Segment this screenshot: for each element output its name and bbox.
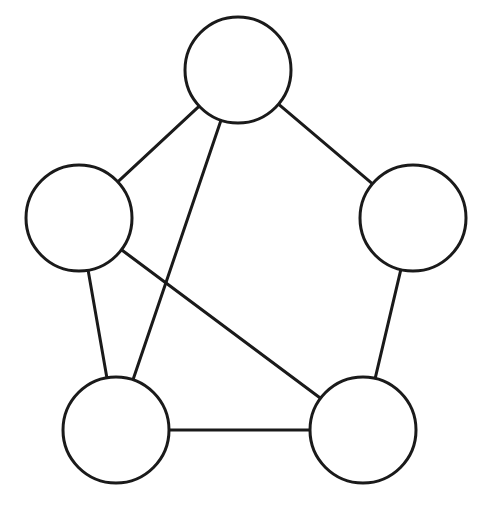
nodes-group [26,17,466,483]
edge-top-right [278,104,372,184]
node-bottom-left [63,377,169,483]
node-right [360,165,466,271]
edge-left-bottom-left [88,270,107,378]
node-bottom-right [310,377,416,483]
graph-diagram [0,0,490,511]
edge-top-bottom-left [133,120,221,380]
edge-right-bottom-right [375,270,401,379]
edge-top-left [118,106,199,182]
node-top [185,17,291,123]
node-left [26,165,132,271]
